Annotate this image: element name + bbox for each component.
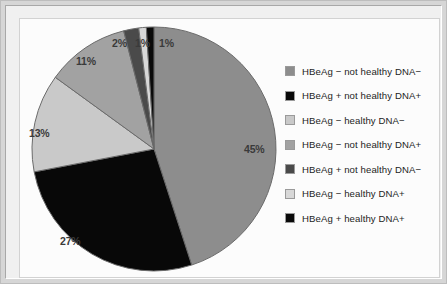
legend-color-swatch-icon <box>285 213 295 223</box>
legend-color-swatch-icon <box>285 189 295 199</box>
legend-color-swatch-icon <box>285 164 295 174</box>
legend-color-swatch-icon <box>285 115 295 125</box>
legend-color-swatch-icon <box>285 91 295 101</box>
pie-slice-percent-label: 1% <box>159 37 174 49</box>
pie-slice-percent-label: 27% <box>60 235 80 247</box>
pie-slice-percent-label: 1% <box>135 37 150 49</box>
legend-item: HBeAg − healthy DNA− <box>285 108 437 133</box>
legend-item: HBeAg − not healthy DNA+ <box>285 133 437 158</box>
legend-item: HBeAg − not healthy DNA− <box>285 59 437 84</box>
chart-legend: HBeAg − not healthy DNA−HBeAg + not heal… <box>285 59 437 231</box>
pie-slice-percent-label: 11% <box>76 55 96 67</box>
legend-item: HBeAg + not healthy DNA+ <box>285 84 437 109</box>
figure-frame: 45%27%13%11%2%1%1% HBeAg − not healthy D… <box>0 0 447 284</box>
legend-item-label: HBeAg − not healthy DNA+ <box>302 139 421 150</box>
legend-item: HBeAg + healthy DNA+ <box>285 206 437 231</box>
pie-slice-percent-label: 2% <box>112 37 127 49</box>
pie-chart-canvas: 45%27%13%11%2%1%1% HBeAg − not healthy D… <box>19 18 440 278</box>
pie-plot-area: 45%27%13%11%2%1%1% <box>28 23 280 275</box>
legend-item-label: HBeAg − healthy DNA+ <box>302 188 405 199</box>
legend-item: HBeAg − healthy DNA+ <box>285 182 437 207</box>
legend-color-swatch-icon <box>285 140 295 150</box>
legend-item-label: HBeAg + not healthy DNA+ <box>302 90 421 101</box>
legend-item: HBeAg + not healthy DNA− <box>285 157 437 182</box>
legend-item-label: HBeAg + not healthy DNA− <box>302 164 421 175</box>
legend-color-swatch-icon <box>285 66 295 76</box>
pie-slice-percent-label: 45% <box>244 143 264 155</box>
pie-slice-percent-label: 13% <box>29 127 49 139</box>
legend-item-label: HBeAg + healthy DNA+ <box>302 213 405 224</box>
legend-item-label: HBeAg − healthy DNA− <box>302 115 405 126</box>
legend-item-label: HBeAg − not healthy DNA− <box>302 66 421 77</box>
frame-bevel: 45%27%13%11%2%1%1% HBeAg − not healthy D… <box>5 5 442 279</box>
